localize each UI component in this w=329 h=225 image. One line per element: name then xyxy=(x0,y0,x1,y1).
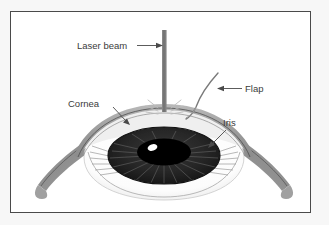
pupil xyxy=(137,139,191,166)
eye-surgery-diagram: Laser beam Flap Cornea Iris xyxy=(0,0,329,225)
cornea-label: Cornea xyxy=(68,98,100,109)
laser-beam xyxy=(162,30,167,112)
figure-root: Laser beam Flap Cornea Iris xyxy=(0,0,329,225)
flap-label: Flap xyxy=(245,83,263,94)
laser-beam-label: Laser beam xyxy=(77,40,127,51)
iris-label: Iris xyxy=(223,117,236,128)
